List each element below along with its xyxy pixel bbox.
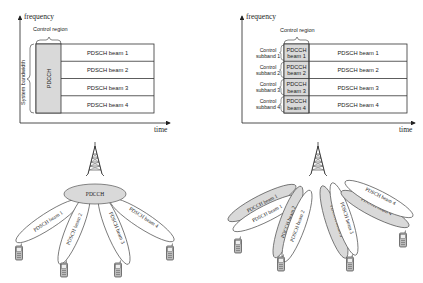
subband-label-line2: subband 3 [256,87,280,93]
subband-brace [280,45,285,60]
right-control-region-label: Control region [280,27,315,33]
right-pdsch-beam-1: PDSCH beam 1 [337,50,378,56]
left-pdsch-beam-3: PDSCH beam 3 [87,85,128,91]
pdcch-beam-line2: beam 3 [287,88,306,94]
user-device-icon [61,261,68,278]
left-resource-grid: frequency time Control region System ban… [20,12,170,134]
subband-brace [280,97,285,112]
right-frequency-label: frequency [246,12,276,21]
user-device-icon [16,244,23,261]
left-pdsch-beam-4: PDSCH beam 4 [87,102,129,108]
user-device-icon [347,255,354,272]
left-pdsch-beam-1: PDSCH beam 1 [87,50,128,56]
pdcch-beam-line1: PDCCH [287,81,307,87]
diagram-canvas: frequency time Control region System ban… [0,0,423,283]
user-device-icon [115,261,122,278]
left-bandwidth-label: System bandwidth [20,60,26,105]
left-base-station-icon [86,142,104,176]
right-base-station-icon [309,142,327,176]
left-pdsch-beam-2: PDSCH beam 2 [87,67,128,73]
pdcch-beam-line2: beam 2 [287,70,306,76]
right-pdsch-beam-4: PDSCH beam 4 [337,102,379,108]
pdcch-beam-line1: PDCCH [287,64,307,70]
left-bandwidth-brace [27,44,34,113]
subband-label-line2: subband 1 [256,53,280,59]
user-device-icon [278,255,285,272]
left-time-label: time [154,125,168,134]
right-resource-grid: frequency time Control region Control su… [242,12,415,134]
right-control-region-brace [284,37,309,44]
subband-brace [280,62,285,77]
pdcch-beam-line1: PDCCH [287,98,307,104]
left-frequency-label: frequency [24,12,54,21]
pdcch-beam-line2: beam 4 [287,105,306,111]
subband-brace [280,80,285,95]
left-beam-diagram: PDSCH beam 1 PDSCH beam 2 PDSCH beam 3 P… [12,142,178,277]
right-beam-diagram: PDCCH beam 1 PDSCH beam 1 PDCCH beam 2 P… [225,142,417,271]
right-pdsch-beam-2: PDSCH beam 2 [337,67,378,73]
user-device-icon [235,237,242,254]
left-control-region-label: Control region [33,26,68,32]
user-device-icon [400,231,407,248]
pdcch-beam-line2: beam 1 [287,53,306,59]
subband-label-line2: subband 4 [256,104,280,110]
user-device-icon [167,244,174,261]
right-pdsch-beam-3: PDSCH beam 3 [337,85,378,91]
subband-label-line2: subband 2 [256,70,280,76]
left-pdcch-label: PDCCH [46,69,52,89]
left-pdcch-broadcast-label: PDCCH [86,191,104,197]
right-time-label: time [399,125,413,134]
pdcch-beam-line1: PDCCH [287,47,307,53]
left-control-region-brace [36,37,61,44]
